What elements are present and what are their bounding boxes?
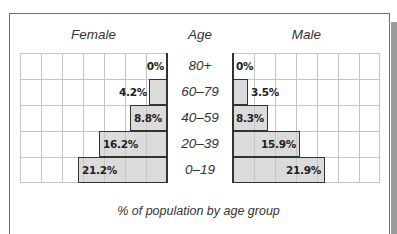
age-label: 80+ [170,53,230,79]
male-value-label: 0% [236,53,253,79]
age-label: 60–79 [170,79,230,105]
female-value-label: 0% [147,53,164,79]
male-value-label: 15.9% [261,131,296,157]
age-label: 20–39 [170,131,230,157]
female-value-label: 4.2% [119,79,147,105]
age-label: 40–59 [170,105,230,131]
female-value-label: 21.2% [82,157,117,183]
male-value-label: 21.9% [286,157,321,183]
male-bar [233,79,248,105]
age-title: Age [170,27,230,42]
male-title: Male [233,27,380,42]
male-value-label: 3.5% [251,79,279,105]
female-value-label: 16.2% [103,131,138,157]
female-axis-line [166,53,168,183]
male-axis-line [232,53,234,183]
female-value-label: 8.8% [134,105,162,131]
male-value-label: 8.3% [236,105,264,131]
chart-caption: % of population by age group [0,204,397,218]
female-bar [149,79,167,105]
female-title: Female [20,27,167,42]
frame-shadow [391,22,397,234]
age-label: 0–19 [170,157,230,183]
